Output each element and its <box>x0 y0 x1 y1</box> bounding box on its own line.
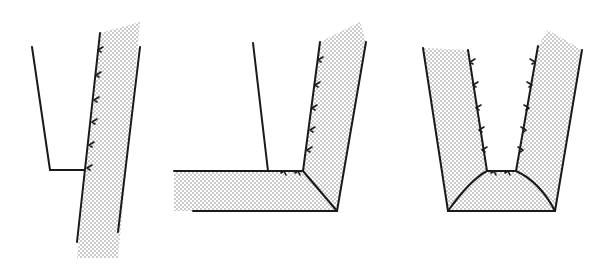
wall-cross-section-diagram <box>0 0 602 264</box>
figure-3-u-channel <box>423 30 582 211</box>
wall-outline <box>253 43 268 171</box>
stippled-material-fill <box>77 22 140 258</box>
stippled-material-fill <box>174 22 366 211</box>
figure-1-inclined-wall <box>32 22 140 258</box>
diagram-canvas <box>0 0 602 264</box>
wall-outline <box>32 47 50 170</box>
figure-2-wall-slab-corner <box>174 22 366 211</box>
